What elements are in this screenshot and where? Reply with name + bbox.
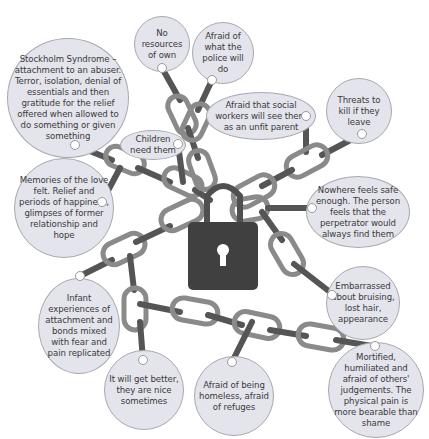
bubble-mortified: Mortified, humiliated and afraid of othe… — [328, 342, 424, 438]
bubble-stockholm: Stockholm Syndrome – attachment to an ab… — [7, 38, 129, 158]
hole-embarrassed — [327, 290, 337, 300]
bubble-police: Afraid of what the police will do — [192, 22, 254, 84]
hole-stockholm — [70, 140, 80, 150]
bubble-social-workers: Afraid that social workers will see them… — [206, 92, 316, 140]
hole-mortified — [370, 341, 380, 351]
hole-police — [207, 75, 217, 85]
bubble-infant: Infant experiences of attachment and bon… — [38, 278, 120, 374]
hole-infant — [75, 271, 85, 281]
hole-threats — [357, 129, 367, 139]
hole-get-better — [138, 355, 148, 365]
hole-social-workers — [301, 111, 311, 121]
chains-padlock-diagram: Stockholm Syndrome – attachment to an ab… — [0, 0, 429, 439]
hole-children — [173, 139, 183, 149]
padlock — [188, 222, 258, 290]
hole-nowhere-safe — [307, 203, 317, 213]
bubble-nowhere-safe: Nowhere feels safe enough. The person fe… — [306, 176, 410, 248]
hole-homeless — [227, 357, 237, 367]
bubble-embarrassed: Embarrassed about bruising, lost hair, a… — [326, 266, 400, 340]
bubble-homeless: Afraid of being homeless, afraid of refu… — [194, 356, 274, 436]
hole-memories — [97, 197, 107, 207]
hole-no-resources — [157, 63, 167, 73]
bubble-memories: Memories of the love felt. Relief and pe… — [14, 158, 114, 258]
